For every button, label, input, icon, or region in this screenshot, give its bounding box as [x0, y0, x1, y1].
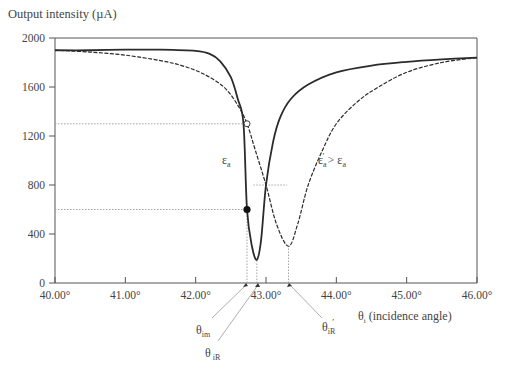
filled-circle-marker: [243, 206, 250, 213]
open-circle-marker: [244, 121, 250, 127]
label-theta-im: θim: [196, 323, 211, 339]
x-tick-label: 45.00°: [391, 289, 422, 301]
axes: 040080012001600200040.00°41.00°42.00°43.…: [22, 32, 493, 301]
x-tick-label: 42.00°: [180, 289, 211, 301]
x-tick-label: 41.00°: [110, 289, 141, 301]
curve-ea-prime: [55, 50, 477, 246]
x-tick-label: 43.00°: [251, 289, 282, 301]
y-axis-title: Output intensity (µA): [8, 7, 117, 21]
curve-label-ea-prime: εa′ > εa: [318, 151, 346, 169]
curve-ea: [55, 50, 477, 260]
pointer-theta-iR: [218, 285, 258, 341]
y-tick-label: 0: [39, 277, 45, 289]
reference-lines: [55, 124, 289, 283]
x-tick-label: 40.00°: [40, 289, 71, 301]
pointer-theta-im: [212, 285, 246, 318]
pointer-theta-iR-prime: [290, 285, 322, 318]
x-tick-label: 46.00°: [462, 289, 493, 301]
chart: Output intensity (µA) 040080012001600200…: [0, 0, 510, 377]
curve-label-ea: εa: [222, 153, 231, 169]
y-tick-label: 400: [28, 228, 46, 240]
y-tick-label: 1200: [22, 130, 45, 142]
label-theta-iR-prime: θiR′: [322, 317, 336, 336]
curves: [55, 50, 477, 260]
y-tick-label: 2000: [22, 32, 45, 44]
label-theta-iR: θiR: [205, 346, 221, 362]
x-tick-label: 44.00°: [321, 289, 352, 301]
y-tick-label: 800: [28, 179, 46, 191]
y-tick-label: 1600: [22, 81, 45, 93]
arrowhead-icon: [255, 283, 260, 287]
x-axis-title: θi (incidence angle): [358, 309, 452, 325]
arrowhead-icon: [243, 283, 248, 287]
